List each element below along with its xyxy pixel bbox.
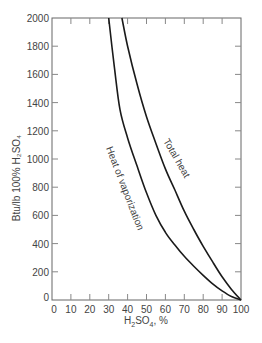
y-tick-label: 1600: [27, 69, 50, 80]
x-tick-label: 20: [84, 304, 96, 315]
x-tick-label: 90: [217, 304, 229, 315]
curve-label-heat-of-vaporization: Heat of vaporization: [104, 145, 146, 232]
y-tick-label: 200: [32, 267, 49, 278]
chart: 0102030405060708090100020040060080010001…: [0, 0, 262, 343]
tick-marks: [52, 18, 241, 300]
x-tick-label: 80: [198, 304, 210, 315]
y-tick-label: 400: [32, 239, 49, 250]
curve-labels: Heat of vaporization Total heat: [104, 137, 192, 232]
tick-labels: 0102030405060708090100020040060080010001…: [27, 13, 250, 315]
y-tick-label: 1800: [27, 41, 50, 52]
y-tick-label: 800: [32, 182, 49, 193]
x-tick-label: 30: [103, 304, 115, 315]
y-tick-label: 2000: [27, 13, 50, 24]
x-tick-label: 70: [179, 304, 191, 315]
x-tick-label: 0: [51, 304, 57, 315]
x-tick-label: 50: [141, 304, 153, 315]
x-tick-label: 10: [65, 304, 77, 315]
x-tick-label: 60: [160, 304, 172, 315]
y-tick-label: 1400: [27, 98, 50, 109]
axes: [52, 18, 241, 300]
curve-label-total-heat: Total heat: [161, 137, 192, 180]
plot-frame: [52, 18, 241, 300]
x-tick-label: 100: [233, 304, 250, 315]
y-tick-label: 600: [32, 210, 49, 221]
x-tick-label: 40: [122, 304, 134, 315]
x-axis-title: H2SO4, %: [124, 315, 168, 328]
y-tick-label: 1200: [27, 126, 50, 137]
y-tick-label: 1000: [27, 154, 50, 165]
y-axis-title: Btu/lb 100% H₂SO₄: [11, 135, 22, 221]
y-tick-label: 0: [43, 292, 49, 303]
